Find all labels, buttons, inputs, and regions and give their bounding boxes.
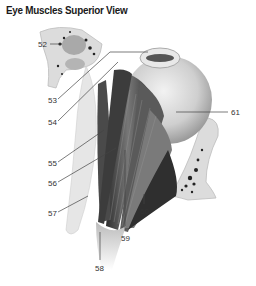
- label-60: 60: [140, 207, 149, 216]
- label-53: 53: [48, 96, 57, 105]
- label-54: 54: [48, 118, 57, 127]
- label-56: 56: [48, 179, 57, 188]
- label-52: 52: [38, 40, 47, 49]
- label-55: 55: [48, 159, 57, 168]
- label-59: 59: [121, 234, 130, 243]
- orbital-fat: [66, 66, 96, 234]
- label-58: 58: [95, 264, 104, 273]
- left-bone: [40, 27, 102, 88]
- label-61: 61: [231, 108, 240, 117]
- label-57: 57: [48, 209, 57, 218]
